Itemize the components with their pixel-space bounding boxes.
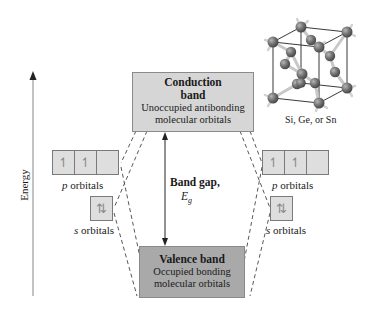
right-p-orbitals-label: p orbitals [272,179,313,191]
arrow-down-icon [162,238,168,246]
left-p-orbital-2: ↿ [74,150,97,175]
valence-band-desc-line2: molecular orbitals [140,278,244,290]
valence-band-description: Occupied bonding molecular orbitals [140,266,244,289]
left-p-orbital-3 [96,150,119,175]
conduction-band-title-line2: band [133,89,253,102]
conduction-band-desc-line1: Unoccupied antibonding [133,102,253,114]
diamond-cubic-lattice-icon [265,19,355,111]
right-s-orbital-boxes: ⇅ [270,196,293,221]
valence-band-title: Valence band [140,253,244,266]
right-p-orbital-1: ↿ [262,150,285,175]
band-gap-symbol: Eg [181,190,192,205]
left-p-rest: orbitals [68,179,104,191]
arrow-up-icon [162,132,168,140]
band-gap-subscript: g [188,196,192,205]
band-gap-symbol-letter: E [181,190,188,202]
energy-axis [30,71,37,296]
band-gap-label: Band gap, [170,176,220,189]
conduction-band-description: Unoccupied antibonding molecular orbital… [133,102,253,125]
conduction-band-desc-line2: molecular orbitals [133,114,253,126]
right-s-orbital-1: ⇅ [270,196,293,221]
right-s-rest: orbitals [270,224,306,236]
conduction-band-title-line1: Conduction [133,76,253,89]
band-diagram: Energy Conduction band Unoccupied antibo… [0,0,374,318]
left-p-orbital-boxes: ↿ ↿ [52,150,119,175]
left-s-orbital-boxes: ⇅ [90,196,113,221]
left-s-orbital-1: ⇅ [90,196,113,221]
right-p-rest: orbitals [278,179,314,191]
axis-arrowhead-icon [30,71,37,80]
left-p-orbital-1: ↿ [52,150,75,175]
valence-band-desc-line1: Occupied bonding [140,266,244,278]
right-p-orbital-3 [306,150,329,175]
valence-band-box: Valence band Occupied bonding molecular … [139,246,245,298]
conduction-band-title: Conduction band [133,76,253,102]
left-s-orbitals-label: s orbitals [74,224,114,236]
right-s-orbitals-label: s orbitals [266,224,306,236]
left-s-rest: orbitals [78,224,114,236]
band-gap-arrow [162,132,168,246]
right-p-orbital-2: ↿ [284,150,307,175]
right-p-orbital-boxes: ↿ ↿ [262,150,329,175]
energy-axis-label: Energy [18,165,30,205]
conduction-band-box: Conduction band Unoccupied antibonding m… [132,72,254,132]
left-p-orbitals-label: p orbitals [62,179,103,191]
crystal-caption: Si, Ge, or Sn [285,114,336,125]
